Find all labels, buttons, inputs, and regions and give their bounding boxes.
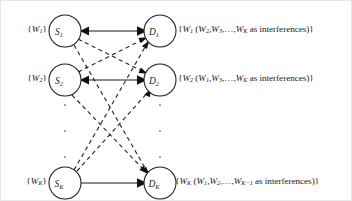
source-nodes (49, 15, 81, 199)
edge-sk-d1 (74, 42, 148, 170)
ellipsis-dot-left-2 (64, 130, 66, 132)
interference-edges (72, 37, 151, 174)
right-label-d2-suffix: as interferences (250, 73, 307, 83)
ellipsis-dot-right-3 (159, 156, 161, 158)
right-label-d2: {W2 (W1,W3,…,WK as interferences)} (178, 74, 314, 83)
ellipsis-dot-right-1 (159, 104, 161, 106)
node-labels: S1 S2 SK D1 D2 DK (54, 27, 160, 190)
ellipsis-dot-left-3 (64, 156, 66, 158)
left-label-wk: {WK} (13, 177, 47, 186)
ellipsis-dot-left-1 (64, 104, 66, 106)
right-label-dk: {WK (W1,W2,…,WK−1 as interferences)} (175, 177, 319, 186)
interference-channel-figure: S1 S2 SK D1 D2 DK (0, 0, 352, 201)
node-s1[interactable] (49, 15, 81, 47)
edge-s1-d2 (78, 39, 146, 73)
source-incoming-arrowheads (80, 27, 89, 85)
left-label-w1: {W1} (13, 25, 47, 34)
right-label-dk-suffix: as interferences (255, 176, 312, 186)
node-s2[interactable] (49, 64, 81, 96)
right-label-d1-suffix: as interferences (250, 24, 307, 34)
left-label-w2: {W2} (13, 74, 47, 83)
right-label-d1: {W1 (W2,W3,…,WK as interferences)} (178, 25, 314, 34)
edge-s2-d1 (78, 38, 146, 72)
ellipsis-dot-right-2 (159, 130, 161, 132)
destination-nodes (144, 15, 176, 199)
